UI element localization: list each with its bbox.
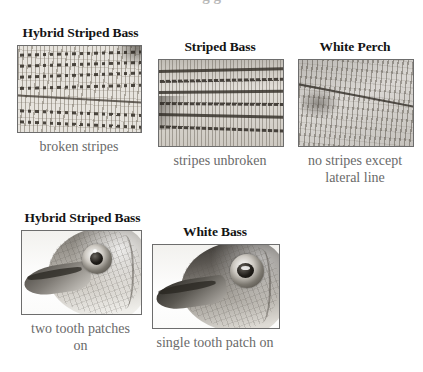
photo-hybrid-striped-bass-head [21,230,142,315]
photo-content [22,231,141,314]
panel-striped-bass-flank: Striped Bass stripes unbroken [152,40,288,169]
panel-hybrid-striped-bass-flank: Hybrid Striped Bass broken stripes [8,26,153,155]
panel-heading: Hybrid Striped Bass [12,211,153,226]
photo-hybrid-striped-bass-flank [17,45,142,133]
fish-eye-pupil [90,252,103,265]
panel-hybrid-striped-bass-head: Hybrid Striped Bass two tooth patches on [12,211,153,355]
photo-shadow [114,46,141,68]
photo-content [18,46,141,132]
panel-white-bass-head: White Bass single tooth patch on [148,225,282,351]
photo-shadow [301,89,340,118]
photo-content [153,245,279,328]
panel-caption: no stripes except lateral line [290,152,420,187]
photo-content [159,60,283,146]
panel-white-perch-flank: White Perch no stripes except lateral li… [290,40,420,187]
photo-shadow [159,96,189,130]
cutoff-top-text: g g [0,0,423,5]
panel-heading: Hybrid Striped Bass [8,26,153,41]
panel-caption: broken stripes [27,138,131,156]
photo-content [299,60,413,146]
photo-striped-bass-flank [158,59,284,147]
panel-heading: Striped Bass [152,40,288,55]
panel-caption: two tooth patches on [27,320,134,355]
panel-caption: stripes unbroken [152,152,288,170]
panel-heading: White Bass [148,225,282,240]
photo-white-perch-flank [298,59,414,147]
photo-white-bass-head [152,244,280,329]
cutoff-top-strip: g g [0,0,423,9]
panel-caption: single tooth patch on [148,334,282,352]
panel-heading: White Perch [290,40,420,55]
